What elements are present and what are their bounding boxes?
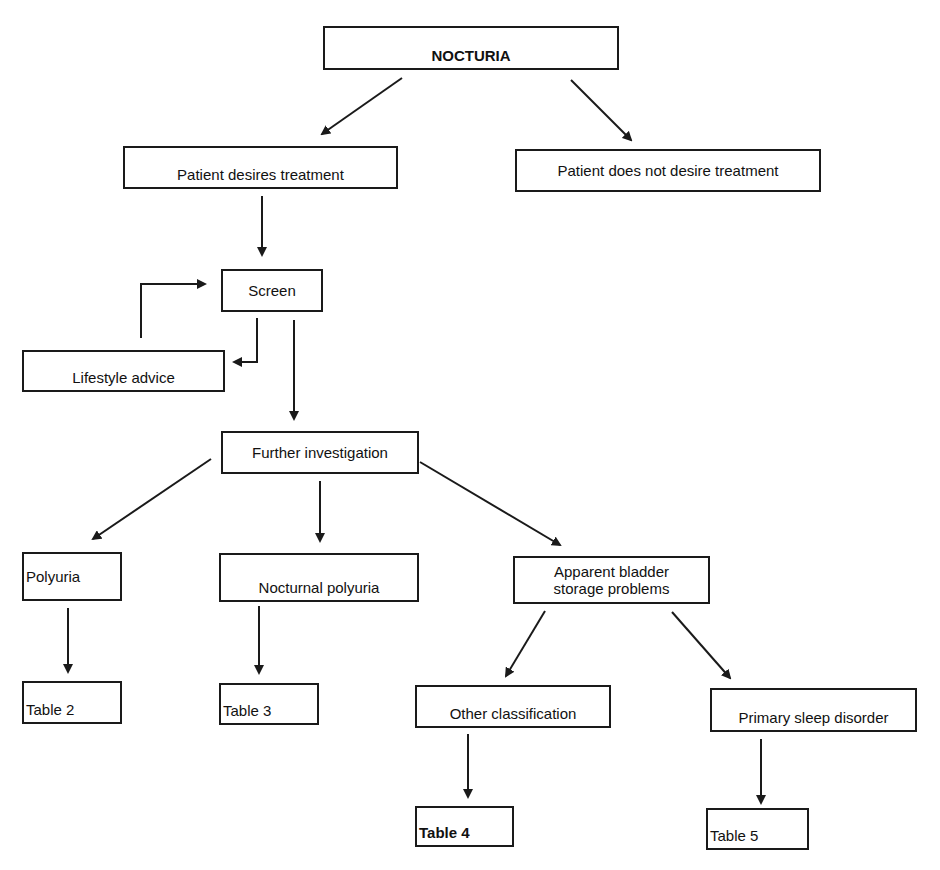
node-other: Other classification <box>415 685 611 728</box>
node-table2: Table 2 <box>22 681 122 724</box>
node-label: Primary sleep disorder <box>738 709 888 726</box>
node-table3: Table 3 <box>219 683 319 725</box>
flowchart-arrows <box>0 0 940 870</box>
node-label: Table 2 <box>26 701 74 718</box>
node-table4: Table 4 <box>415 806 514 847</box>
node-label: Table 3 <box>223 702 271 719</box>
node-nocturia: NOCTURIA <box>323 26 619 70</box>
node-label: Table 5 <box>710 827 758 844</box>
arrow-further-to-polyuria <box>93 459 211 539</box>
node-label: NOCTURIA <box>431 47 510 64</box>
node-label: Nocturnal polyuria <box>259 579 380 596</box>
node-screen: Screen <box>221 269 323 312</box>
arrow-lifestyle-to-screen <box>141 284 205 338</box>
arrow-nocturia-to-desires <box>322 78 402 134</box>
node-label: Lifestyle advice <box>72 369 175 386</box>
node-label: Polyuria <box>26 568 80 585</box>
node-label: Patient does not desire treatment <box>558 162 779 179</box>
node-table5: Table 5 <box>706 808 809 850</box>
arrow-screen-to-lifestyle <box>234 318 257 362</box>
arrow-nocturia-to-not-desire <box>571 80 631 140</box>
node-label: Patient desires treatment <box>177 166 344 183</box>
node-desires: Patient desires treatment <box>123 146 398 189</box>
node-further: Further investigation <box>221 431 419 474</box>
node-label: Further investigation <box>252 444 388 461</box>
nocturia-flowchart: NOCTURIAPatient desires treatmentPatient… <box>0 0 940 870</box>
node-label: Other classification <box>450 705 577 722</box>
arrow-further-to-bladder <box>420 462 560 545</box>
node-label: Apparent bladder storage problems <box>554 563 670 598</box>
node-label: Screen <box>248 282 296 299</box>
node-polyuria: Polyuria <box>22 552 122 601</box>
node-sleep: Primary sleep disorder <box>710 688 917 732</box>
node-lifestyle: Lifestyle advice <box>22 350 225 392</box>
arrow-bladder-to-sleep <box>672 612 730 678</box>
node-bladder: Apparent bladder storage problems <box>513 556 710 604</box>
node-label: Table 4 <box>419 824 470 841</box>
node-not-desire: Patient does not desire treatment <box>515 149 821 192</box>
arrow-bladder-to-other <box>506 611 545 676</box>
node-nocturnal: Nocturnal polyuria <box>219 553 419 602</box>
